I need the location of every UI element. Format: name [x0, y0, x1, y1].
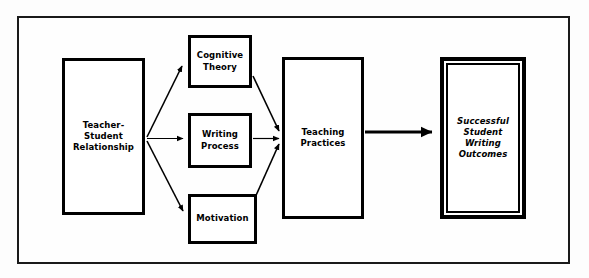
node-label: Teaching Practices [299, 127, 348, 149]
node-cognitive-theory[interactable]: Cognitive Theory [188, 35, 252, 88]
node-label: Teacher- Student Relationship [71, 120, 136, 153]
node-label: Writing Process [199, 129, 241, 151]
diagram-canvas: Teacher- Student Relationship Cognitive … [0, 0, 589, 278]
node-label: Successful Student Writing Outcomes [455, 116, 511, 160]
node-successful-student-writing-outcomes[interactable]: Successful Student Writing Outcomes [440, 57, 526, 219]
node-writing-process[interactable]: Writing Process [188, 113, 252, 168]
node-label: Cognitive Theory [195, 50, 245, 72]
node-inner-border: Successful Student Writing Outcomes [446, 63, 520, 213]
node-motivation[interactable]: Motivation [188, 194, 257, 244]
node-teaching-practices[interactable]: Teaching Practices [282, 57, 364, 219]
node-teacher-student-relationship[interactable]: Teacher- Student Relationship [62, 58, 145, 215]
node-label: Motivation [194, 213, 250, 224]
